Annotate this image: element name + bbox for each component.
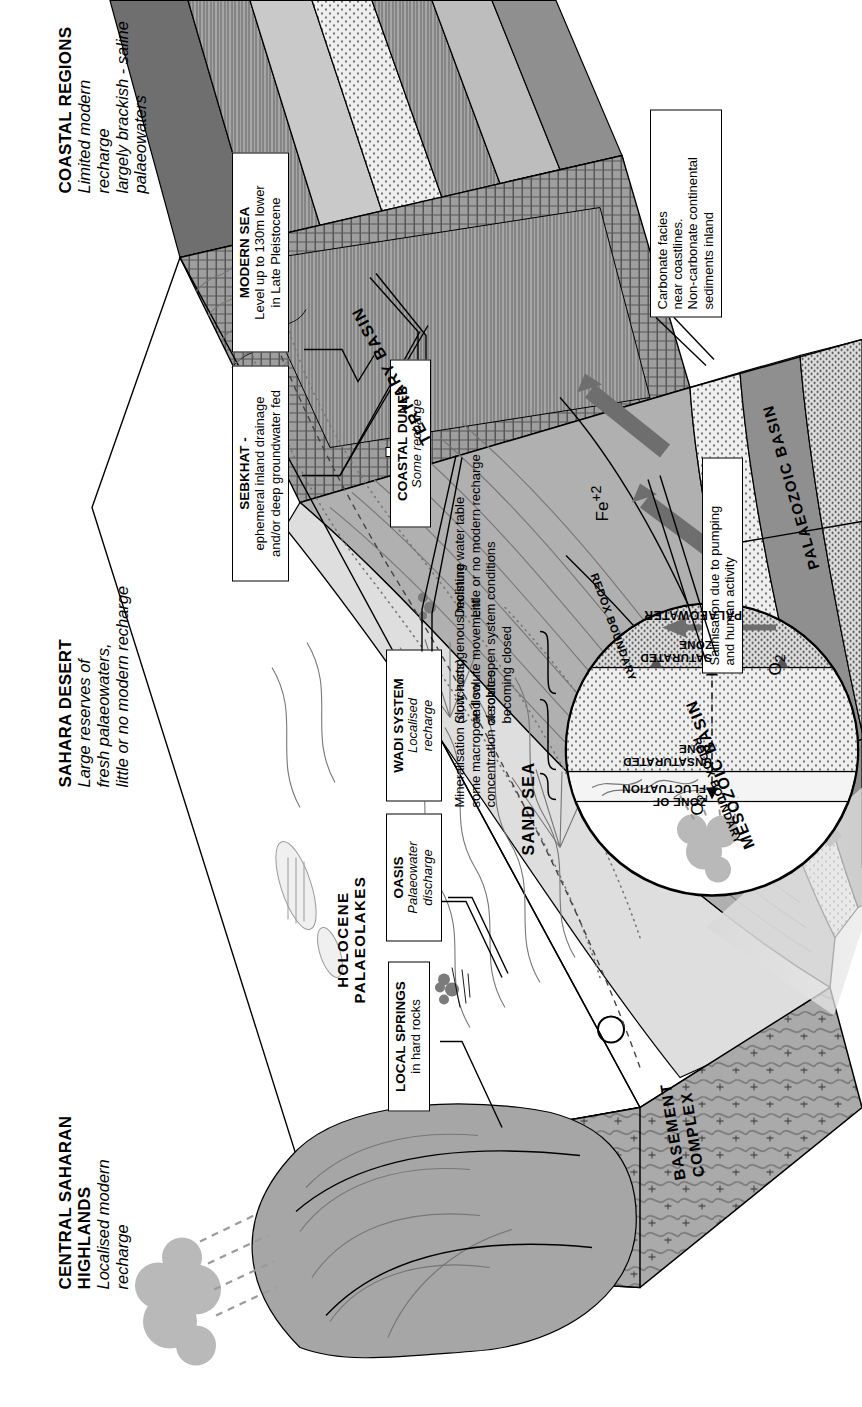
inset-label-unsaturated-zone: UNSATURATED ZONE <box>623 740 712 767</box>
map-label-holocene-palaeolakes: HOLOCENE PALAEOLAKES <box>334 875 369 1003</box>
callout-title: LOCAL SPRINGS <box>393 969 408 1103</box>
callout-oasis: OASIS Palaeowater discharge <box>386 813 442 941</box>
callout-body: Palaeowater discharge <box>406 821 436 933</box>
callout-body: ephemeral inland drainage and/or deep gr… <box>252 373 282 573</box>
header-subtitle: Large reserves of fresh palaeowaters, li… <box>75 537 131 787</box>
header-title: CENTRAL SAHARAN HIGHLANDS <box>56 1039 94 1289</box>
callout-body: Localised recharge <box>406 657 436 793</box>
header-subtitle: Limited modern recharge largely brackish… <box>75 17 150 193</box>
map-label-iron: Fe+2 <box>588 485 613 521</box>
callout-title: WADI SYSTEM <box>391 657 406 793</box>
well-marker <box>598 1016 624 1042</box>
callout-title: SEBKHAT - <box>237 373 252 573</box>
header-title: SAHARA DESERT <box>56 537 75 787</box>
callout-wadi-system: WADI SYSTEM Localised recharge <box>386 649 442 801</box>
inset-label-palaeowater: PALAEOWATER <box>644 607 742 621</box>
inset-label-saturated-zone: SATURATED ZONE <box>640 636 712 663</box>
callout-body: Level up to 130m lower in Late Pleistoce… <box>252 160 282 344</box>
leader-oasis <box>440 837 560 997</box>
map-label-oxygen-lower: O2 <box>766 654 788 675</box>
callout-modern-sea: MODERN SEA Level up to 130m lower in Lat… <box>232 152 289 352</box>
inset-label-zone-of-fluctuation: ZONE OF FLUCTUATION <box>622 780 706 807</box>
callout-sebkhat: SEBKHAT - ephemeral inland drainage and/… <box>232 365 289 581</box>
header-central-saharan-highlands: CENTRAL SAHARAN HIGHLANDS Localised mode… <box>56 1039 132 1289</box>
header-coastal-regions: COASTAL REGIONS Limited modern recharge … <box>56 17 150 193</box>
header-title: COASTAL REGIONS <box>56 17 75 193</box>
callout-title: OASIS <box>391 821 406 933</box>
callout-body: in hard rocks <box>408 969 423 1103</box>
callout-local-springs: LOCAL SPRINGS in hard rocks <box>388 961 430 1111</box>
header-sahara-desert: SAHARA DESERT Large reserves of fresh pa… <box>56 537 131 787</box>
callout-title: MODERN SEA <box>237 160 252 344</box>
inset-annotation-declining-water-table: Declining water table Little or no moder… <box>452 454 483 617</box>
diagram-stage: COASTAL REGIONS Limited modern recharge … <box>0 0 862 1407</box>
map-label-sand-sea: SAND SEA <box>520 761 538 855</box>
header-subtitle: Localised modern recharge <box>94 1039 132 1289</box>
leader-carbonate-facies <box>640 217 760 377</box>
leader-local-springs <box>438 981 558 1161</box>
